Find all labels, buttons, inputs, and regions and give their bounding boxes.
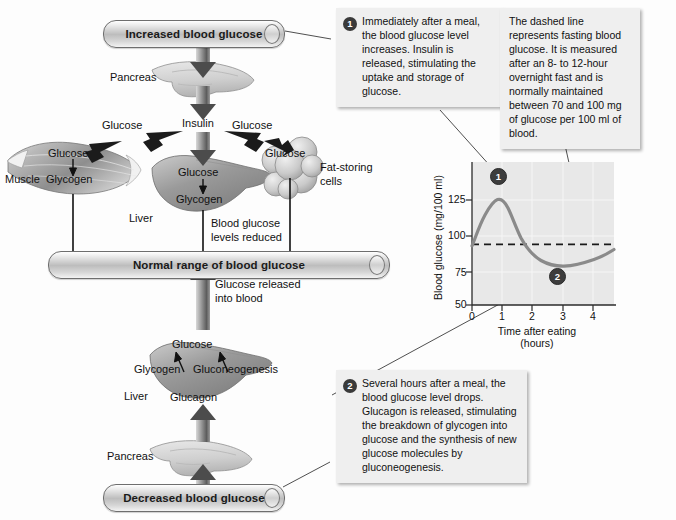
label-fat-storing-cells: Fat-storing cells <box>320 161 373 189</box>
vessel-label-increased: Increased blood glucose <box>125 28 262 40</box>
label-liver-lower-glycogen: Glycogen <box>134 363 180 377</box>
callout-2-text: Several hours after a meal, the blood gl… <box>362 377 518 475</box>
label-liver-lower: Liver <box>124 390 148 404</box>
label-pancreas-upper: Pancreas <box>110 71 156 85</box>
flow-arrow-pancreas-to-insulin <box>190 86 216 120</box>
vessel-bar-normal-range: Normal range of blood glucose <box>48 251 390 279</box>
vessel-end-cap <box>369 255 385 275</box>
vessel-end-cap <box>264 24 280 44</box>
callout-1-badge: 1 <box>343 17 357 31</box>
label-liver-upper: Liver <box>129 212 153 226</box>
label-glucose-left-branch: Glucose <box>102 119 142 133</box>
chart-marker-2: 2 <box>549 268 566 285</box>
label-fat-glucose: Glucose <box>265 147 305 161</box>
label-muscle: Muscle <box>5 173 40 187</box>
label-glucose-released-into-blood: Glucose released into blood <box>215 278 301 306</box>
callout-dashed-line-note: The dashed line represents fasting blood… <box>500 8 640 149</box>
vessel-label-decreased: Decreased blood glucose <box>123 492 265 504</box>
chart-marker-1: 1 <box>490 168 507 185</box>
callout-step-2: 2 Several hours after a meal, the blood … <box>336 370 527 483</box>
label-glucose-right-branch: Glucose <box>232 119 272 133</box>
label-liver-glucose: Glucose <box>178 166 218 180</box>
label-glucagon: Glucagon <box>170 391 217 405</box>
label-liver-lower-glucose: Glucose <box>172 338 212 352</box>
chart-x-axis-title-line1: Time after eating <box>472 325 602 337</box>
label-muscle-glucose: Glucose <box>48 147 88 161</box>
vessel-end-cap <box>264 488 280 508</box>
vessel-bar-increased-blood-glucose: Increased blood glucose <box>103 20 285 48</box>
callout-1-text: Immediately after a meal, the blood gluc… <box>362 15 494 99</box>
label-muscle-glycogen: Glycogen <box>46 173 92 187</box>
callout-2-badge: 2 <box>343 379 357 393</box>
chart-plot-area <box>424 160 639 320</box>
blood-glucose-chart: Blood glucose (mg/100 ml) 125 100 75 50 … <box>424 160 639 345</box>
label-pancreas-lower: Pancreas <box>107 450 153 464</box>
label-blood-glucose-levels-reduced: Blood glucose levels reduced <box>211 217 282 245</box>
callout-dashed-text: The dashed line represents fasting blood… <box>509 15 631 141</box>
blood-glucose-regulation-figure: Increased blood glucose Normal range of … <box>0 0 676 520</box>
chart-x-axis-title-line2: (hours) <box>472 337 602 349</box>
label-liver-glycogen: Glycogen <box>176 193 222 207</box>
label-gluconeogenesis: Gluconeogenesis <box>193 363 278 377</box>
vessel-bar-decreased-blood-glucose: Decreased blood glucose <box>103 484 285 512</box>
flow-arrow-glucagon-to-liver <box>190 404 216 442</box>
callout-step-1: 1 Immediately after a meal, the blood gl… <box>336 8 503 107</box>
vessel-label-normal: Normal range of blood glucose <box>133 259 305 271</box>
flow-arrow-top-to-pancreas <box>190 46 216 78</box>
flow-arrow-insulin-to-liver <box>190 132 216 166</box>
label-insulin: Insulin <box>182 117 214 131</box>
